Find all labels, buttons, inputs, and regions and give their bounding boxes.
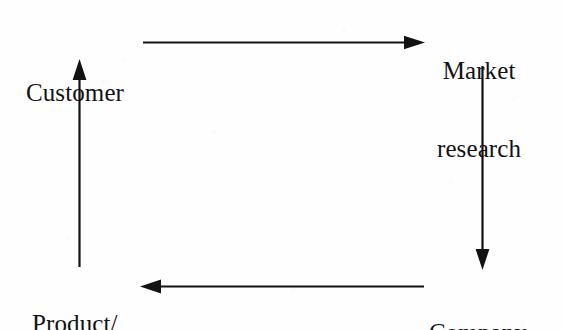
node-company-line-1: Company bbox=[429, 320, 527, 330]
edge-customer-to-market-research bbox=[143, 36, 425, 49]
node-product-service-line-1: Product/ bbox=[32, 311, 118, 330]
node-market-research-line-2: research bbox=[437, 136, 521, 162]
node-market-research: Market research bbox=[437, 6, 521, 214]
diagram-canvas: Customer Market research Company Product… bbox=[0, 0, 564, 330]
arrowhead-down-icon bbox=[476, 249, 490, 270]
arrowhead-right-icon bbox=[404, 36, 425, 49]
node-market-research-line-1: Market bbox=[437, 58, 521, 84]
node-customer-line-1: Customer bbox=[26, 80, 124, 106]
node-product-service: Product/ service bbox=[32, 259, 118, 330]
node-customer: Customer bbox=[26, 28, 124, 158]
arrowhead-left-icon bbox=[140, 280, 161, 294]
edge-company-to-product-service bbox=[140, 280, 424, 294]
node-company: Company bbox=[429, 268, 527, 330]
